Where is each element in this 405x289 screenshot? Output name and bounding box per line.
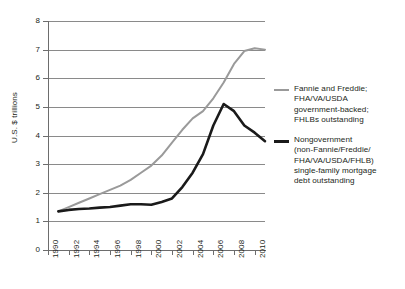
legend-label-line: FHLBs outstanding [294, 115, 402, 125]
legend-label-line: government-backed; [294, 105, 402, 115]
legend-label-line: (non-Fannie/Freddie/ [294, 145, 402, 155]
chart-legend: Fannie and Freddie;FHA/VA/USDAgovernment… [274, 84, 402, 197]
legend-label: Nongovernment(non-Fannie/Freddie/FHA/VA/… [294, 135, 402, 186]
series-line-nongovernment [58, 104, 265, 211]
legend-entry: Nongovernment(non-Fannie/Freddie/FHA/VA/… [274, 135, 402, 186]
legend-label-line: FHA/VA/USDA/FHLB) [294, 156, 402, 166]
legend-swatch-gray [274, 89, 289, 91]
series-line-fannie-freddie [58, 48, 265, 211]
legend-label-line: Fannie and Freddie; [294, 84, 402, 94]
chart-figure: 876543210 199019921994199619982000200220… [0, 0, 405, 289]
legend-label-line: single-family mortgage [294, 166, 402, 176]
legend-label-line: Nongovernment [294, 135, 402, 145]
legend-label-line: debt outstanding [294, 176, 402, 186]
legend-entry: Fannie and Freddie;FHA/VA/USDAgovernment… [274, 84, 402, 125]
legend-swatch-black [274, 140, 289, 143]
legend-label: Fannie and Freddie;FHA/VA/USDAgovernment… [294, 84, 402, 125]
legend-label-line: FHA/VA/USDA [294, 94, 402, 104]
